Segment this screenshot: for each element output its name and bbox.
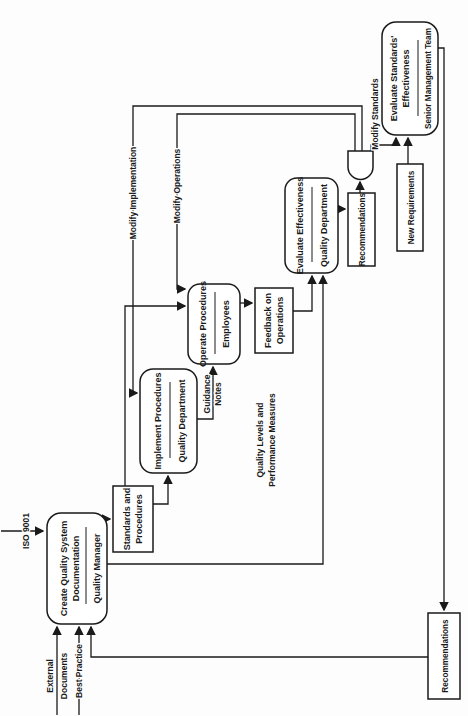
process-role: Quality Department [319,184,329,267]
process-title: Evaluate Effectiveness [295,177,305,275]
and-junction-gate [348,151,373,180]
flow-label-quality-levels: Quality Levels and [255,402,265,477]
store-standards-and-procedures [113,486,153,552]
flow-label-documents: Documents [59,653,69,700]
store-label: Operations [275,297,285,345]
store-feedback-on-operations [255,288,293,353]
flow-label-modify-operations: Modify Operations [172,148,182,223]
flow-label-guidance: Guidance [202,374,212,413]
store-label: Recommendations [358,192,367,266]
arrow-standards-to-implement [153,476,168,504]
store-label: Standards and [122,488,132,551]
flow-label-external: External [45,659,55,693]
store-label: New Requirements [407,170,416,244]
store-label: Recommendations [441,619,450,693]
flow-label-best-practice: Best Practice [74,644,84,698]
process-title: Effectiveness [401,49,411,107]
dfd-diagram: Create Quality System Documentation Qual… [0,0,468,716]
process-title: Documentation [71,536,81,602]
process-title: Operate Procedures [198,281,208,367]
process-title: Implement Procedures [153,372,163,469]
process-role: Quality Department [177,379,187,462]
process-title: Evaluate Standards' [389,36,399,122]
process-role: Employees [221,300,231,348]
process-operate-procedures [188,284,240,364]
process-implement-procedures [140,369,197,473]
store-label: Feedback on [263,293,273,348]
flow-label-notes: Notes [213,382,223,406]
arrow-senior-to-recommendations [438,48,444,610]
arrow-recommendations-to-create [91,627,428,657]
flow-label-performance-measures: Performance Measures [267,393,277,487]
store-label: Procedures [134,494,144,544]
flow-label-modify-implementation: Modify Implementation [128,147,138,240]
process-title: Create Quality System [59,521,69,617]
rotated-canvas: Create Quality System Documentation Qual… [0,0,468,716]
process-role: Senior Management Team [424,28,433,129]
flow-label-iso-9001: ISO 9001 [21,513,31,549]
arrow-feedback-to-evaluate [293,276,312,311]
flow-label-modify-standards: Modify Standards [370,78,380,150]
scanned-diagram-page: Create Quality System Documentation Qual… [0,0,468,716]
process-role: Quality Manager [92,533,102,604]
